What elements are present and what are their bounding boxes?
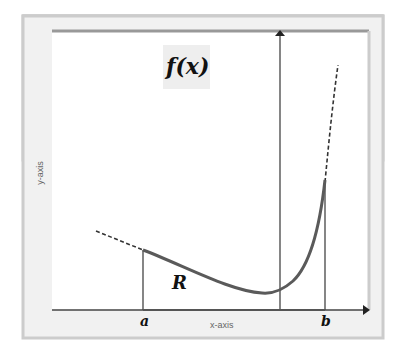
function-label: f(x)	[166, 53, 209, 79]
upper-bound-label: b	[321, 313, 331, 329]
x-axis-label: x-axis	[210, 320, 234, 330]
plot-area	[52, 31, 369, 310]
lower-bound-label: a	[140, 313, 149, 329]
y-axis-label: y-axis	[35, 153, 45, 193]
region-label: R	[172, 272, 187, 293]
